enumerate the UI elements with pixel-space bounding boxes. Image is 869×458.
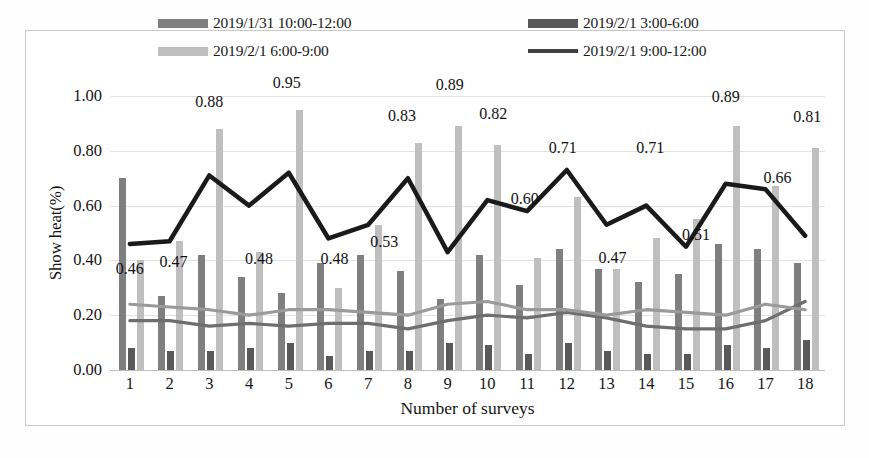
bar xyxy=(565,343,572,370)
bar-group xyxy=(198,96,222,370)
bar xyxy=(128,348,135,370)
bar xyxy=(733,126,740,370)
legend-item-label: 2019/2/1 3:00-6:00 xyxy=(583,14,699,32)
bar xyxy=(207,351,214,370)
bar xyxy=(715,244,722,370)
x-axis-title: Number of surveys xyxy=(110,398,825,419)
bar xyxy=(635,282,642,370)
data-label: 0.71 xyxy=(636,139,664,157)
legend-item-label: 2019/1/31 10:00-12:00 xyxy=(213,14,351,32)
data-label: 0.88 xyxy=(195,93,223,111)
y-axis-title: Show heat(%) xyxy=(46,96,68,370)
data-label: 0.47 xyxy=(160,253,188,271)
x-axis-tick-label: 6 xyxy=(324,374,332,394)
bar-group xyxy=(397,96,421,370)
data-label: 0.46 xyxy=(116,260,144,278)
legend-item-label: 2019/2/1 6:00-9:00 xyxy=(213,42,329,60)
x-axis-tick-label: 3 xyxy=(205,374,213,394)
bar xyxy=(256,252,263,370)
x-axis-tick-label: 1 xyxy=(126,374,134,394)
bar xyxy=(525,354,532,370)
legend-item[interactable]: 2019/1/31 10:00-12:00 xyxy=(158,14,351,32)
bar xyxy=(574,197,581,370)
chart-legend: 2019/1/31 10:00-12:002019/2/1 3:00-6:002… xyxy=(150,14,810,70)
bar-group xyxy=(158,96,182,370)
data-label: 0.48 xyxy=(245,250,273,268)
legend-bar-swatch-icon xyxy=(158,19,208,28)
x-axis-tick-label: 14 xyxy=(638,374,655,394)
bar xyxy=(494,145,501,370)
bar xyxy=(772,186,779,370)
bar xyxy=(317,263,324,370)
bar xyxy=(198,255,205,370)
data-label: 0.53 xyxy=(370,233,398,251)
data-label: 0.81 xyxy=(793,108,821,126)
bar-group xyxy=(516,96,540,370)
data-label: 0.66 xyxy=(763,169,791,187)
legend-bar-swatch-icon xyxy=(528,19,578,28)
bar-group xyxy=(476,96,500,370)
x-axis-tick-label: 4 xyxy=(245,374,253,394)
bar xyxy=(326,356,333,370)
x-axis-tick-label: 16 xyxy=(717,374,734,394)
bar xyxy=(684,354,691,370)
legend-bar-swatch-icon xyxy=(158,47,208,56)
bar xyxy=(446,343,453,370)
legend-item[interactable]: 2019/2/1 6:00-9:00 xyxy=(158,42,329,60)
data-label: 0.71 xyxy=(549,139,577,157)
bar xyxy=(158,296,165,370)
bar-group xyxy=(794,96,818,370)
bar xyxy=(516,285,523,370)
bar xyxy=(287,343,294,370)
legend-item[interactable]: 2019/2/1 9:00-12:00 xyxy=(528,42,706,60)
x-axis-tick-label: 11 xyxy=(519,374,535,394)
bar xyxy=(812,148,819,370)
bar xyxy=(415,143,422,370)
line-series xyxy=(130,302,805,316)
bar xyxy=(613,269,620,370)
x-axis-tick-label: 17 xyxy=(757,374,774,394)
bar xyxy=(604,351,611,370)
bar xyxy=(167,351,174,370)
legend-item-label: 2019/2/1 9:00-12:00 xyxy=(583,42,706,60)
bar-group xyxy=(754,96,778,370)
y-axis-tick-label: 0.40 xyxy=(73,250,102,270)
plot-area: 0.000.200.400.600.801.000.460.470.880.48… xyxy=(110,96,825,370)
data-label: 0.47 xyxy=(599,249,627,267)
bar xyxy=(366,351,373,370)
x-axis-tick-label: 18 xyxy=(797,374,814,394)
bar-group xyxy=(317,96,341,370)
x-axis-tick-label: 12 xyxy=(559,374,576,394)
bar-group xyxy=(119,96,143,370)
data-label: 0.48 xyxy=(320,250,348,268)
bar xyxy=(397,271,404,370)
bar xyxy=(238,277,245,370)
y-axis-tick-label: 1.00 xyxy=(73,86,102,106)
bar xyxy=(675,274,682,370)
bar xyxy=(644,354,651,370)
bar xyxy=(556,249,563,370)
bar-group xyxy=(635,96,659,370)
bar xyxy=(595,269,602,370)
bar xyxy=(653,238,660,370)
data-label: 0.82 xyxy=(479,105,507,123)
y-axis-tick-label: 0.60 xyxy=(73,196,102,216)
x-axis-tick-label: 10 xyxy=(479,374,496,394)
bar xyxy=(754,249,761,370)
data-label: 0.60 xyxy=(511,190,539,208)
data-label: 0.83 xyxy=(388,107,416,125)
bar-group xyxy=(715,96,739,370)
legend-line-swatch-icon xyxy=(528,49,578,53)
bar-group xyxy=(556,96,580,370)
x-axis-tick-label: 9 xyxy=(444,374,452,394)
bar xyxy=(763,348,770,370)
bar xyxy=(406,351,413,370)
bar xyxy=(216,129,223,370)
legend-item[interactable]: 2019/2/1 3:00-6:00 xyxy=(528,14,699,32)
y-gridline xyxy=(110,370,825,371)
x-axis-tick-labels: 123456789101112131415161718 xyxy=(110,374,825,400)
bar xyxy=(724,345,731,370)
bar xyxy=(357,255,364,370)
x-axis-tick-label: 5 xyxy=(285,374,293,394)
y-axis-tick-label: 0.80 xyxy=(73,141,102,161)
